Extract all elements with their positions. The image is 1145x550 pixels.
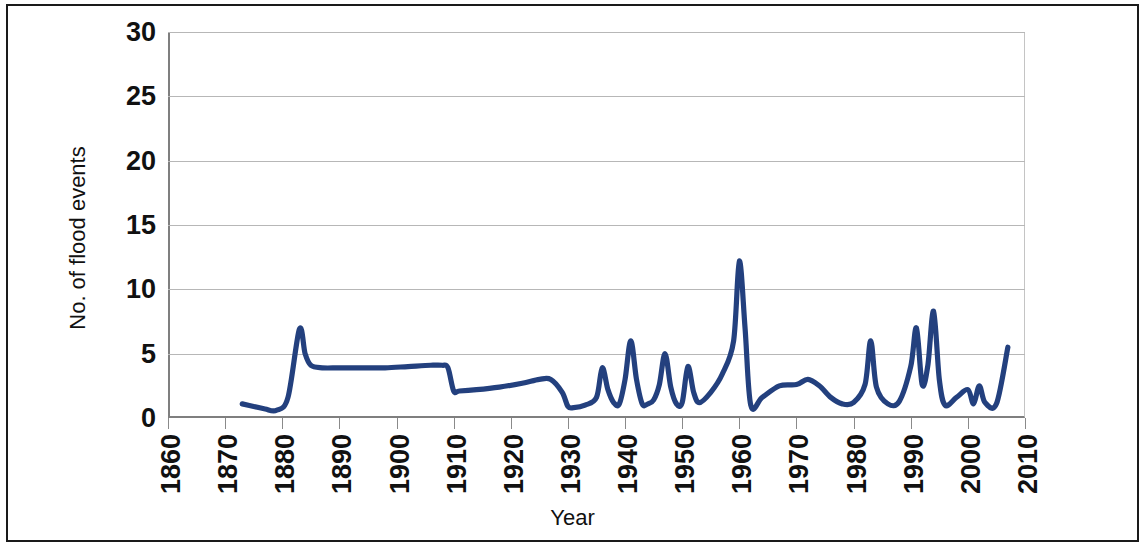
y-axis-tick-labels: 051015202530 bbox=[68, 32, 156, 418]
x-tick-label-1900: 1900 bbox=[387, 434, 414, 494]
x-tick-label-1990: 1990 bbox=[901, 434, 928, 494]
x-tick-mark-1960 bbox=[739, 418, 740, 429]
y-tick-label-5: 5 bbox=[76, 340, 156, 367]
y-tick-label-10: 10 bbox=[76, 276, 156, 303]
x-tick-mark-1920 bbox=[511, 418, 512, 429]
x-tick-mark-1990 bbox=[911, 418, 912, 429]
x-tick-mark-1900 bbox=[397, 418, 398, 429]
x-tick-label-1970: 1970 bbox=[786, 434, 813, 494]
y-tick-label-20: 20 bbox=[76, 147, 156, 174]
plot-area bbox=[168, 32, 1025, 418]
series-path-no-of-flood-events bbox=[242, 261, 1008, 411]
x-tick-mark-2000 bbox=[968, 418, 969, 429]
y-tick-label-15: 15 bbox=[76, 212, 156, 239]
flood-events-chart-figure: No. of flood events 051015202530 1860187… bbox=[0, 0, 1145, 550]
x-tick-mark-1860 bbox=[168, 418, 169, 429]
data-line-series bbox=[168, 32, 1025, 418]
x-tick-label-1960: 1960 bbox=[729, 434, 756, 494]
y-tick-label-0: 0 bbox=[76, 405, 156, 432]
x-tick-label-1910: 1910 bbox=[444, 434, 471, 494]
x-tick-mark-1950 bbox=[682, 418, 683, 429]
x-tick-label-2000: 2000 bbox=[958, 434, 985, 494]
x-tick-mark-1870 bbox=[225, 418, 226, 429]
x-tick-mark-1880 bbox=[282, 418, 283, 429]
x-tick-label-2010: 2010 bbox=[1015, 434, 1042, 494]
x-tick-label-1920: 1920 bbox=[501, 434, 528, 494]
x-tick-label-1930: 1930 bbox=[558, 434, 585, 494]
x-tick-mark-1910 bbox=[454, 418, 455, 429]
x-tick-label-1980: 1980 bbox=[844, 434, 871, 494]
x-tick-mark-2010 bbox=[1025, 418, 1026, 429]
x-tick-mark-1980 bbox=[854, 418, 855, 429]
y-tick-label-30: 30 bbox=[76, 19, 156, 46]
x-tick-label-1860: 1860 bbox=[158, 434, 185, 494]
x-tick-mark-1890 bbox=[339, 418, 340, 429]
x-tick-mark-1930 bbox=[568, 418, 569, 429]
x-tick-label-1940: 1940 bbox=[615, 434, 642, 494]
x-tick-label-1880: 1880 bbox=[272, 434, 299, 494]
x-axis-title: Year bbox=[0, 505, 1145, 531]
x-tick-label-1870: 1870 bbox=[215, 434, 242, 494]
x-tick-label-1950: 1950 bbox=[672, 434, 699, 494]
y-tick-label-25: 25 bbox=[76, 83, 156, 110]
x-tick-mark-1940 bbox=[625, 418, 626, 429]
x-tick-label-1890: 1890 bbox=[329, 434, 356, 494]
x-tick-mark-1970 bbox=[796, 418, 797, 429]
